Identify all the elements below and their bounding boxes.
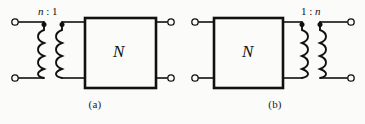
panel-a-secondary-winding: [56, 22, 62, 78]
panel-b-primary-winding: [302, 22, 308, 78]
panel-a-terminal-output-bottom: [168, 75, 174, 81]
panel-a-turns-ratio-label: n : 1: [38, 5, 58, 17]
circuit-diagram-svg: [0, 0, 365, 124]
panel-a-terminal-input-top: [12, 19, 18, 25]
panel-a-turns-ratio-separator: :: [46, 5, 49, 17]
panel-a-terminal-input-bottom: [12, 75, 18, 81]
panel-a-primary-winding: [38, 22, 44, 78]
panel-b-turns-ratio-label: 1 : n: [301, 5, 321, 17]
panel-a-network-label: N: [113, 42, 124, 62]
figure-container: n : 1 1 : n N N (a) (b): [0, 0, 365, 124]
panel-b-turns-ratio-separator: :: [309, 5, 312, 17]
panel-b-group: [192, 18, 354, 88]
panel-b-terminal-output-top: [348, 19, 354, 25]
panel-b-caption: (b): [245, 98, 305, 110]
panel-a-polarity-dot-primary: [42, 22, 47, 27]
panel-a-terminal-output-top: [168, 19, 174, 25]
panel-a-group: [12, 18, 174, 88]
panel-b-network-label: N: [242, 42, 253, 62]
panel-b-terminal-input-bottom: [192, 75, 198, 81]
panel-b-terminal-input-top: [192, 19, 198, 25]
panel-b-polarity-dot-primary: [300, 22, 305, 27]
panel-a-caption: (a): [65, 98, 125, 110]
panel-a-turns-ratio-right: 1: [52, 5, 58, 17]
panel-b-turns-ratio-left: 1: [301, 5, 307, 17]
panel-a-turns-ratio-left: n: [38, 5, 44, 17]
panel-b-secondary-winding: [320, 22, 326, 78]
panel-b-turns-ratio-right: n: [315, 5, 321, 17]
panel-b-terminal-output-bottom: [348, 75, 354, 81]
